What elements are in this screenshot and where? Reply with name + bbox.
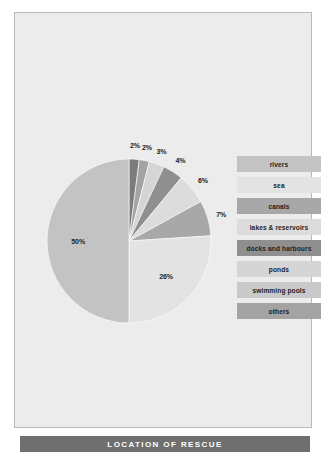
pie-chart-svg bbox=[46, 158, 212, 324]
slide-title-bar: LOCATION OF RESCUE bbox=[20, 436, 310, 452]
legend-item-rivers[interactable]: rivers bbox=[237, 156, 321, 172]
pie-slice-label: 2% bbox=[130, 142, 140, 149]
pie-slice bbox=[129, 236, 211, 323]
legend-item-label: swimming pools bbox=[252, 287, 305, 294]
legend-item-label: docks and harbours bbox=[247, 245, 312, 252]
chart-legend: riversseacanalslakes & reservoirsdocks a… bbox=[237, 156, 321, 324]
legend-item-sea[interactable]: sea bbox=[237, 177, 321, 193]
slide-title: LOCATION OF RESCUE bbox=[107, 440, 222, 449]
legend-item-others[interactable]: others bbox=[237, 303, 321, 319]
legend-item-label: others bbox=[269, 308, 290, 315]
pie-chart: 2%2%3%4%6%7%26%50% bbox=[46, 158, 212, 324]
legend-item-label: canals bbox=[268, 203, 289, 210]
pie-slice-label: 2% bbox=[142, 143, 152, 150]
legend-item-docks-and-harbours[interactable]: docks and harbours bbox=[237, 240, 321, 256]
legend-item-label: lakes & reservoirs bbox=[250, 224, 309, 231]
legend-item-ponds[interactable]: ponds bbox=[237, 261, 321, 277]
legend-item-canals[interactable]: canals bbox=[237, 198, 321, 214]
pie-slice-label: 3% bbox=[157, 147, 167, 154]
pie-slice bbox=[47, 159, 129, 323]
pie-slice-label: 7% bbox=[216, 211, 226, 218]
slide-card: 2%2%3%4%6%7%26%50% riversseacanalslakes … bbox=[14, 12, 312, 428]
legend-item-label: ponds bbox=[269, 266, 289, 273]
legend-item-label: rivers bbox=[270, 161, 289, 168]
legend-item-lakes-reservoirs[interactable]: lakes & reservoirs bbox=[237, 219, 321, 235]
legend-item-swimming-pools[interactable]: swimming pools bbox=[237, 282, 321, 298]
legend-item-label: sea bbox=[273, 182, 284, 189]
